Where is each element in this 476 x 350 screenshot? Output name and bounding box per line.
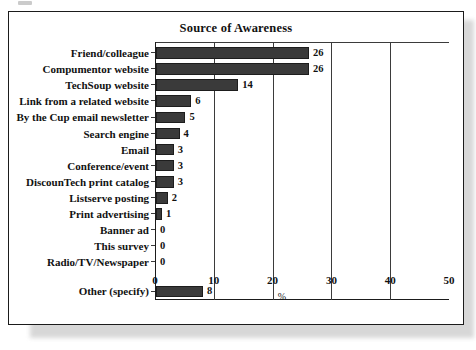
y-axis-tick bbox=[151, 117, 155, 118]
category-label: Banner ad bbox=[100, 222, 149, 238]
bar[interactable] bbox=[156, 79, 238, 91]
category-label: DiscounTech print catalog bbox=[26, 174, 149, 190]
bar-value-label: 5 bbox=[189, 109, 194, 125]
x-tick-label-20: 20 bbox=[267, 274, 278, 286]
category-label: Listserve posting bbox=[69, 190, 149, 206]
bar[interactable] bbox=[156, 63, 309, 75]
bar[interactable] bbox=[156, 112, 185, 124]
y-axis-tick bbox=[151, 68, 155, 69]
y-axis-tick bbox=[151, 149, 155, 150]
bar-value-label: 1 bbox=[166, 206, 171, 222]
y-axis-tick bbox=[151, 229, 155, 230]
bar-row: By the Cup email newsletter5 bbox=[155, 109, 449, 125]
bar[interactable] bbox=[156, 160, 174, 172]
x-tick-label-40: 40 bbox=[385, 274, 396, 286]
category-label: Friend/colleague bbox=[71, 45, 149, 61]
bar-row: Search engine4 bbox=[155, 126, 449, 142]
category-label: This survey bbox=[94, 238, 149, 254]
category-label: Search engine bbox=[84, 126, 150, 142]
y-axis-tick bbox=[151, 52, 155, 53]
bar-value-label: 3 bbox=[178, 174, 183, 190]
category-label: Email bbox=[121, 142, 149, 158]
bar-row: Banner ad0 bbox=[155, 222, 449, 238]
bar-row: Email3 bbox=[155, 142, 449, 158]
plot-top-rule bbox=[155, 42, 449, 43]
category-label: Other (specify) bbox=[79, 283, 149, 299]
bar-value-label: 0 bbox=[160, 254, 165, 270]
bar[interactable] bbox=[156, 208, 162, 220]
category-label: Print advertising bbox=[69, 206, 149, 222]
category-label: Conference/event bbox=[67, 158, 149, 174]
bar-value-label: 0 bbox=[160, 222, 165, 238]
bar-value-label: 2 bbox=[172, 190, 177, 206]
y-axis-tick bbox=[151, 245, 155, 246]
bar[interactable] bbox=[156, 47, 309, 59]
y-axis-tick bbox=[151, 213, 155, 214]
scan-artifact bbox=[18, 1, 32, 5]
plot-area: Friend/colleague26Compumentor website26T… bbox=[155, 42, 449, 300]
bar-value-label: 6 bbox=[195, 93, 200, 109]
x-tick-label-10: 10 bbox=[208, 274, 219, 286]
x-axis-title: % bbox=[278, 291, 286, 302]
x-tick-label-50: 50 bbox=[444, 274, 455, 286]
y-axis-tick bbox=[151, 291, 155, 292]
category-label: Compumentor website bbox=[43, 61, 149, 77]
bar-value-label: 26 bbox=[313, 45, 324, 61]
y-axis-tick bbox=[151, 181, 155, 182]
bar-value-label: 3 bbox=[178, 142, 183, 158]
bar-row: Link from a related website6 bbox=[155, 93, 449, 109]
category-label: Radio/TV/Newspaper bbox=[47, 254, 149, 270]
x-tick-label-0: 0 bbox=[152, 274, 158, 286]
bar-row: Radio/TV/Newspaper0 bbox=[155, 254, 449, 270]
bar[interactable] bbox=[156, 286, 203, 298]
bar-value-label: 0 bbox=[160, 238, 165, 254]
bar-value-label: 14 bbox=[242, 77, 253, 93]
y-axis-tick bbox=[151, 133, 155, 134]
bar-row: TechSoup website14 bbox=[155, 77, 449, 93]
y-axis-tick bbox=[151, 165, 155, 166]
bar[interactable] bbox=[156, 144, 174, 156]
bar-row: Conference/event3 bbox=[155, 158, 449, 174]
bar-row: DiscounTech print catalog3 bbox=[155, 174, 449, 190]
y-axis-tick bbox=[151, 261, 155, 262]
bar-value-label: 4 bbox=[184, 126, 189, 142]
category-label: Link from a related website bbox=[19, 93, 149, 109]
bar-row: Compumentor website26 bbox=[155, 61, 449, 77]
bar-row: Friend/colleague26 bbox=[155, 45, 449, 61]
bar[interactable] bbox=[156, 176, 174, 188]
bar-row: Listserve posting2 bbox=[155, 190, 449, 206]
chart-figure-frame: Source of Awareness Friend/colleague26Co… bbox=[8, 11, 464, 325]
bar[interactable] bbox=[156, 192, 168, 204]
bar-row: This survey0 bbox=[155, 238, 449, 254]
chart-title: Source of Awareness bbox=[9, 21, 463, 36]
y-axis-tick bbox=[151, 100, 155, 101]
bar[interactable] bbox=[156, 128, 180, 140]
bar-row: Print advertising1 bbox=[155, 206, 449, 222]
y-axis-tick bbox=[151, 197, 155, 198]
bar-row: Other (specify)8 bbox=[155, 283, 449, 299]
category-label: TechSoup website bbox=[65, 77, 149, 93]
bar-value-label: 26 bbox=[313, 61, 324, 77]
x-tick-label-30: 30 bbox=[326, 274, 337, 286]
y-axis-tick bbox=[151, 84, 155, 85]
category-label: By the Cup email newsletter bbox=[16, 109, 149, 125]
bar-value-label: 3 bbox=[178, 158, 183, 174]
bar[interactable] bbox=[156, 95, 191, 107]
